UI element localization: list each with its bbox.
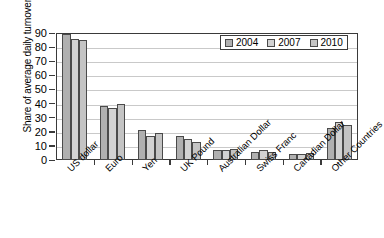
y-tick-label: 50	[35, 83, 47, 95]
y-tick-mark	[49, 160, 55, 161]
y-tick-label: 70	[35, 55, 47, 67]
legend-label: 2010	[321, 37, 343, 48]
bar	[155, 133, 163, 160]
y-tick: 10	[0, 140, 56, 152]
bar	[138, 130, 146, 160]
y-tick: 50	[0, 83, 56, 95]
y-tick-mark	[49, 103, 55, 104]
bar	[251, 152, 259, 160]
legend: 200420072010	[220, 35, 348, 50]
legend-item: 2010	[310, 37, 343, 48]
legend-swatch	[225, 39, 233, 47]
bar	[213, 150, 221, 160]
bar-group	[138, 33, 163, 160]
bar-group	[176, 33, 201, 160]
y-tick-label: 30	[35, 112, 47, 124]
y-tick-label: 40	[35, 98, 47, 110]
bar-group	[100, 33, 125, 160]
y-tick-mark	[49, 145, 55, 146]
y-tick-label: 60	[35, 69, 47, 81]
y-tick-mark	[49, 75, 55, 76]
y-tick: 70	[0, 55, 56, 67]
y-tick-mark	[49, 47, 55, 48]
legend-swatch	[267, 39, 275, 47]
bar	[71, 39, 79, 160]
y-tick-mark	[49, 89, 55, 90]
bar	[117, 104, 125, 160]
legend-label: 2004	[236, 37, 258, 48]
x-axis-labels: US dollarEuroYenUK PoundAustralian Dolla…	[56, 160, 358, 238]
legend-item: 2004	[225, 37, 258, 48]
y-tick: 30	[0, 112, 56, 124]
y-tick: 60	[0, 69, 56, 81]
y-tick: 0	[0, 154, 56, 166]
y-tick-label: 80	[35, 41, 47, 53]
legend-item: 2007	[267, 37, 300, 48]
bar	[100, 106, 108, 160]
bar-group	[62, 33, 87, 160]
bar	[62, 34, 70, 160]
y-tick: 20	[0, 126, 56, 138]
y-tick-mark	[49, 117, 55, 118]
legend-label: 2007	[278, 37, 300, 48]
legend-swatch	[310, 39, 318, 47]
y-tick-label: 0	[41, 154, 47, 166]
y-tick-mark	[49, 33, 55, 34]
bar	[176, 136, 184, 160]
y-tick-label: 90	[35, 27, 47, 39]
y-tick: 90	[0, 27, 56, 39]
y-tick: 80	[0, 41, 56, 53]
bar-group	[213, 33, 238, 160]
y-tick-label: 20	[35, 126, 47, 138]
y-tick: 40	[0, 98, 56, 110]
y-axis-ticks: 0102030405060708090	[0, 0, 56, 238]
bar	[79, 40, 87, 160]
y-tick-mark	[49, 61, 55, 62]
y-tick-mark	[49, 131, 55, 132]
y-tick-label: 10	[35, 140, 47, 152]
